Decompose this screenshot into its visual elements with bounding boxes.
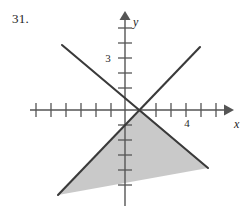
x-tick-label-4: 4 [184,117,190,129]
y-tick-label-3: 3 [105,52,111,64]
y-axis-arrowhead [120,11,131,20]
y-axis-label: y [132,15,139,29]
x-axis-label: x [233,117,240,131]
figure-container: 31. [0,0,250,216]
coordinate-graph: 3 4 y x [0,0,250,216]
x-axis-arrowhead [224,105,234,116]
